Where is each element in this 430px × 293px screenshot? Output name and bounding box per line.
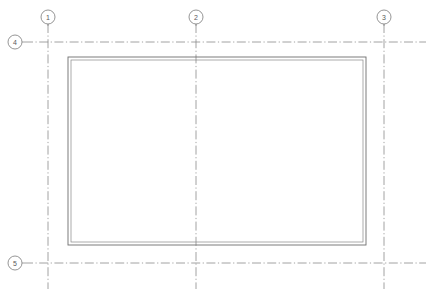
grid-bubble-2-label: 2 xyxy=(194,14,198,21)
building-outline[interactable] xyxy=(68,57,366,245)
grid-bubble-5[interactable]: 5 xyxy=(8,256,24,270)
wall-outer-line xyxy=(68,57,366,245)
grid-bubble-3-label: 3 xyxy=(382,14,386,21)
plan-canvas: 1 2 3 4 5 xyxy=(0,0,430,293)
grid-bubble-5-label: 5 xyxy=(13,260,17,267)
grid-bubble-4[interactable]: 4 xyxy=(8,35,24,49)
wall-inner-line xyxy=(71,60,363,242)
grid-bubble-1[interactable]: 1 xyxy=(41,10,55,26)
grid-lines-vertical xyxy=(48,24,384,289)
floor-plan-drawing: 1 2 3 4 5 xyxy=(0,0,430,293)
grid-bubble-2[interactable]: 2 xyxy=(189,10,203,26)
grid-bubble-1-label: 1 xyxy=(46,14,50,21)
grid-bubble-4-label: 4 xyxy=(13,39,17,46)
grid-bubble-3[interactable]: 3 xyxy=(377,10,391,26)
